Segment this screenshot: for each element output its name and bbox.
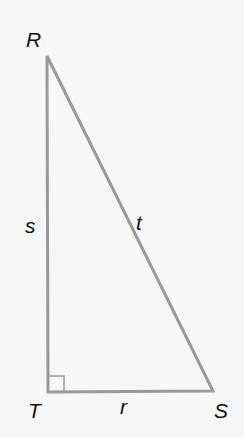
- triangle-diagram: R T S s t r: [0, 0, 244, 437]
- side-label-t: t: [136, 211, 143, 234]
- vertex-label-s: S: [214, 399, 228, 422]
- side-label-s: s: [25, 214, 36, 237]
- triangle-rts: [47, 56, 213, 392]
- vertex-label-t: T: [28, 399, 43, 422]
- right-angle-marker: [48, 376, 64, 392]
- vertex-label-r: R: [26, 28, 41, 51]
- side-label-r: r: [120, 395, 128, 418]
